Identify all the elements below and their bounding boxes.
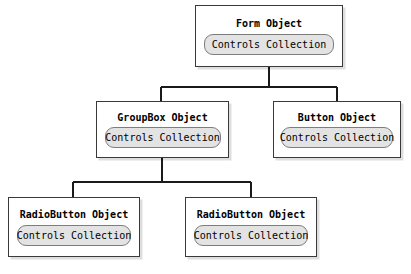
node-groupbox-object: GroupBox Object Controls Collection xyxy=(96,101,229,158)
node-radiobutton-object-1-title: RadioButton Object xyxy=(20,209,128,220)
node-radiobutton-object-2: RadioButton Object Controls Collection xyxy=(185,197,317,257)
node-button-object-controls-collection: Controls Collection xyxy=(281,127,393,148)
node-button-object: Button Object Controls Collection xyxy=(273,101,401,158)
node-radiobutton-object-1-controls-collection: Controls Collection xyxy=(17,225,131,246)
node-radiobutton-object-2-title: RadioButton Object xyxy=(197,209,305,220)
node-groupbox-object-controls-collection: Controls Collection xyxy=(105,127,221,148)
object-hierarchy-diagram: Form Object Controls Collection GroupBox… xyxy=(0,0,411,274)
node-button-object-title: Button Object xyxy=(298,112,376,123)
node-form-object-title: Form Object xyxy=(236,18,302,29)
node-form-object: Form Object Controls Collection xyxy=(195,5,343,67)
node-form-object-controls-collection: Controls Collection xyxy=(204,34,334,55)
node-radiobutton-object-2-controls-collection: Controls Collection xyxy=(194,225,308,246)
node-radiobutton-object-1: RadioButton Object Controls Collection xyxy=(8,197,140,257)
node-groupbox-object-title: GroupBox Object xyxy=(117,112,207,123)
